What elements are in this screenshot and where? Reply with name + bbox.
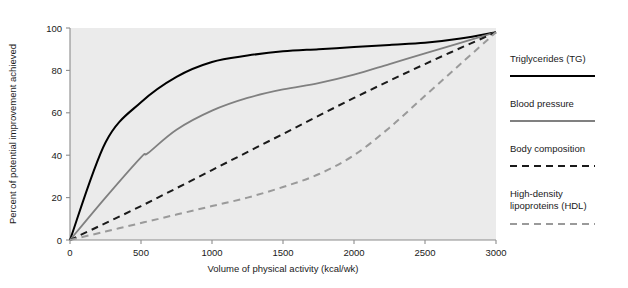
x-tick-label: 1500 [272,247,293,258]
y-tick-label: 0 [57,235,62,246]
legend-label-0: Triglycerides (TG) [510,53,586,64]
legend-label-3: High-density [510,188,563,199]
x-tick-label: 2000 [343,247,364,258]
x-tick-label: 3000 [485,247,506,258]
y-tick-label: 40 [51,150,62,161]
y-tick-label: 100 [46,23,62,34]
x-axis-title: Volume of physical activity (kcal/wk) [208,263,359,274]
line-chart: 020406080100050010001500200025003000Volu… [0,0,628,288]
legend-label-3-line2: lipoproteins (HDL) [510,200,587,211]
plot-background [70,28,496,240]
legend-label-2: Body composition [510,143,585,154]
x-tick-label: 2500 [414,247,435,258]
x-tick-label: 0 [67,247,72,258]
legend-label-1: Blood pressure [510,98,574,109]
y-tick-label: 80 [51,65,62,76]
x-tick-label: 500 [133,247,149,258]
y-tick-label: 60 [51,107,62,118]
chart-figure: 020406080100050010001500200025003000Volu… [0,0,628,288]
y-axis-title: Percent of potential improvement achieve… [7,44,18,224]
y-tick-label: 20 [51,192,62,203]
x-tick-label: 1000 [201,247,222,258]
